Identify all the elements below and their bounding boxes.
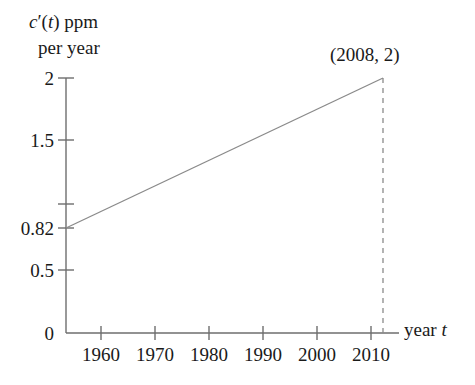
data-line-series-0: [66, 78, 383, 228]
plot-area: [0, 0, 475, 385]
chart-figure: c′(t) ppm per year (2008, 2) 2 1.5 0.82 …: [0, 0, 475, 385]
